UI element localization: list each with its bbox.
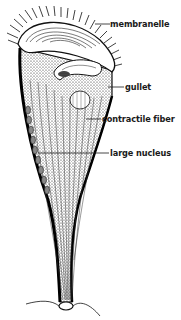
organism-body xyxy=(20,48,112,316)
label-membranelle: membranelle xyxy=(110,20,170,28)
holdfast xyxy=(26,301,100,316)
label-large-nucleus: large nucleus xyxy=(110,149,171,157)
label-gullet: gullet xyxy=(125,83,151,91)
label-contractile-fiber: contractile fiber xyxy=(102,115,175,123)
stentor-illustration xyxy=(0,0,181,320)
